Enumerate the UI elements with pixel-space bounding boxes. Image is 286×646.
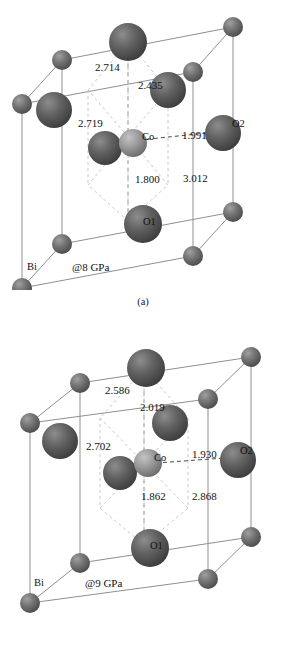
unit-cell-diagram-b: 2.586 2.019 2.702 1.930 1.862 2.868 Co O… bbox=[0, 323, 286, 613]
atom-label-bi-b: Bi bbox=[34, 578, 44, 589]
atom-label-co-b: Co bbox=[154, 453, 166, 464]
distance-label-lower-right-a: 3.012 bbox=[183, 173, 208, 184]
distance-label-right-b: 1.930 bbox=[192, 449, 217, 460]
distance-label-right-a: 1.991 bbox=[182, 130, 207, 141]
distance-label-center-down-a: 1.800 bbox=[135, 174, 160, 185]
distance-label-center-down-b: 1.862 bbox=[141, 491, 166, 502]
panel-caption-a: (a) bbox=[0, 296, 286, 307]
structure-panel-b: 2.586 2.019 2.702 1.930 1.862 2.868 Co O… bbox=[0, 323, 286, 646]
distance-label-lower-right-b: 2.868 bbox=[192, 491, 217, 502]
distance-label-mid-left-a: 2.719 bbox=[78, 118, 103, 129]
cell-edges-depth-b bbox=[30, 357, 251, 603]
distance-label-upper-mid-b: 2.019 bbox=[140, 402, 165, 413]
atom-label-o2-a: O2 bbox=[232, 119, 245, 130]
atom-label-co-a: Co bbox=[142, 132, 154, 143]
distance-label-upper-mid-a: 2.435 bbox=[138, 80, 163, 91]
structure-panel-a: 2.714 2.435 2.719 1.991 1.800 3.012 Co O… bbox=[0, 0, 286, 323]
atom-label-bi-a: Bi bbox=[27, 262, 37, 273]
pressure-label-a: @8 GPa bbox=[72, 262, 109, 273]
pressure-label-b: @9 GPa bbox=[85, 578, 122, 589]
distance-label-top-left-a: 2.714 bbox=[95, 62, 120, 73]
unit-cell-svg-a bbox=[0, 0, 286, 290]
bi-atoms-b bbox=[20, 347, 261, 613]
unit-cell-svg-b bbox=[0, 323, 286, 613]
distance-label-mid-left-b: 2.702 bbox=[86, 441, 111, 452]
atom-label-o1-a: O1 bbox=[143, 217, 156, 228]
unit-cell-diagram-a: 2.714 2.435 2.719 1.991 1.800 3.012 Co O… bbox=[0, 0, 286, 290]
distance-label-top-left-b: 2.586 bbox=[105, 385, 130, 396]
atom-label-o1-b: O1 bbox=[150, 541, 163, 552]
atom-label-o2-b: O2 bbox=[240, 446, 253, 457]
